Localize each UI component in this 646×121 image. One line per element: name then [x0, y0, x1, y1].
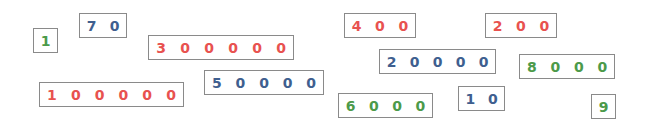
tile-digit: 0: [269, 40, 293, 56]
tile-digit: 0: [386, 98, 409, 114]
number-tile-50000[interactable]: 50000: [204, 70, 324, 95]
tile-digit: 0: [426, 54, 449, 70]
tile-digit: 0: [472, 54, 495, 70]
tile-digit: 0: [135, 87, 159, 103]
tile-digit: 9: [592, 99, 615, 115]
tile-digit: 0: [299, 75, 323, 91]
number-tile-200[interactable]: 200: [485, 13, 557, 38]
tile-digit: 0: [409, 98, 432, 114]
number-tile-300000[interactable]: 300000: [148, 35, 294, 60]
tile-digit: 0: [221, 40, 245, 56]
number-tile-6000[interactable]: 6000: [338, 93, 433, 118]
tile-digit: 0: [197, 40, 221, 56]
tile-digit: 0: [276, 75, 300, 91]
number-tile-70[interactable]: 70: [79, 13, 127, 38]
tile-digit: 0: [64, 87, 88, 103]
tile-digit: 0: [173, 40, 197, 56]
tile-digit: 0: [252, 75, 276, 91]
tile-digit: 0: [533, 18, 556, 34]
tile-digit: 0: [544, 59, 568, 75]
tile-digit: 0: [229, 75, 253, 91]
tile-digit: 1: [40, 87, 64, 103]
number-tile-20000[interactable]: 20000: [379, 49, 496, 74]
tile-digit: 0: [591, 59, 615, 75]
tile-digit: 1: [34, 33, 57, 49]
number-tile-10[interactable]: 10: [458, 86, 505, 111]
tile-digit: 2: [380, 54, 403, 70]
tile-digit: 6: [339, 98, 362, 114]
tile-digit: 0: [567, 59, 591, 75]
number-tile-9[interactable]: 9: [591, 94, 616, 119]
tile-digit: 3: [149, 40, 173, 56]
tile-digit: 0: [159, 87, 183, 103]
tile-digit: 0: [368, 18, 391, 34]
tile-digit: 0: [403, 54, 426, 70]
tile-digit: 4: [345, 18, 368, 34]
tile-digit: 0: [362, 98, 385, 114]
tile-digit: 0: [392, 18, 415, 34]
tile-digit: 1: [459, 91, 482, 107]
tile-digit: 5: [205, 75, 229, 91]
number-tile-400[interactable]: 400: [344, 13, 416, 38]
number-tile-100000[interactable]: 100000: [39, 82, 184, 107]
tile-digit: 0: [509, 18, 532, 34]
tile-digit: 7: [80, 18, 103, 34]
number-tile-8000[interactable]: 8000: [519, 54, 615, 79]
number-tile-1[interactable]: 1: [33, 28, 58, 53]
tile-digit: 0: [88, 87, 112, 103]
tile-digit: 2: [486, 18, 509, 34]
tile-digit: 0: [112, 87, 136, 103]
tile-digit: 0: [245, 40, 269, 56]
tile-digit: 8: [520, 59, 544, 75]
tile-digit: 0: [103, 18, 126, 34]
tile-digit: 0: [449, 54, 472, 70]
tile-digit: 0: [482, 91, 505, 107]
